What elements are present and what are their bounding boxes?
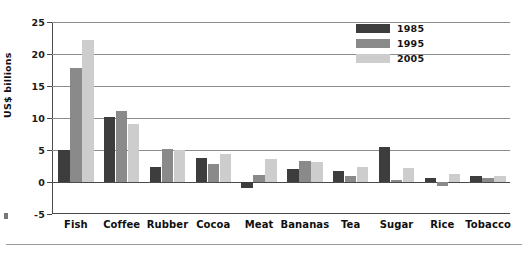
x-tick-label: Cocoa <box>196 219 230 230</box>
bar-chart: US$ billions 2520151050-5 FishCoffeeRubb… <box>0 0 528 260</box>
x-tick-label: Rubber <box>147 219 188 230</box>
legend-label: 1985 <box>397 23 424 34</box>
bar <box>253 175 265 182</box>
y-tick-mark <box>47 22 52 23</box>
y-tick-label: 15 <box>31 81 45 92</box>
x-axis-labels: FishCoffeeRubberCocoaMeatBananasTeaSugar… <box>52 219 510 239</box>
bar <box>265 159 277 182</box>
legend: 198519952005 <box>356 22 448 67</box>
bar <box>116 111 128 182</box>
bar <box>241 182 253 188</box>
bar <box>128 124 140 182</box>
bar <box>357 167 369 182</box>
legend-item: 1995 <box>356 37 448 50</box>
legend-item: 1985 <box>356 22 448 35</box>
page-edge-mark <box>4 213 8 219</box>
y-tick-label: 20 <box>31 49 45 60</box>
bar-group <box>465 22 511 214</box>
x-tick-label: Tobacco <box>465 219 511 230</box>
x-tick-label: Fish <box>64 219 88 230</box>
y-tick-label: 5 <box>38 145 45 156</box>
x-tick-label: Meat <box>245 219 274 230</box>
legend-swatch <box>356 24 390 33</box>
bar <box>482 178 494 182</box>
bar <box>494 176 506 182</box>
bar <box>299 161 311 182</box>
y-tick-mark <box>47 118 52 119</box>
bar <box>104 117 116 182</box>
bar <box>70 68 82 182</box>
bar <box>333 171 345 182</box>
bar-group <box>190 22 236 214</box>
bar <box>311 162 323 182</box>
y-tick-mark <box>47 182 52 183</box>
bar <box>208 164 220 182</box>
bar <box>58 150 70 182</box>
x-tick-label: Sugar <box>380 219 414 230</box>
bottom-rule <box>6 244 522 245</box>
bar <box>287 169 299 182</box>
bar <box>379 147 391 182</box>
bar <box>470 176 482 182</box>
legend-item: 2005 <box>356 52 448 65</box>
y-tick-label: 10 <box>31 113 45 124</box>
y-tick-mark <box>47 54 52 55</box>
bar <box>345 176 357 182</box>
y-tick-label: 25 <box>31 17 45 28</box>
bar <box>425 178 437 182</box>
y-axis-title: US$ billions <box>2 52 13 118</box>
bar <box>220 154 232 182</box>
bar-group <box>236 22 282 214</box>
bar-group <box>53 22 99 214</box>
legend-swatch <box>356 54 390 63</box>
y-tick-label: -5 <box>34 209 45 220</box>
x-tick-label: Rice <box>430 219 454 230</box>
y-tick-mark <box>47 86 52 87</box>
y-tick-mark <box>47 214 52 215</box>
bar <box>162 149 174 182</box>
x-tick-label: Tea <box>341 219 360 230</box>
legend-label: 1995 <box>397 38 424 49</box>
legend-swatch <box>356 39 390 48</box>
x-tick-label: Bananas <box>281 219 330 230</box>
bar <box>82 40 94 182</box>
x-tick-label: Coffee <box>103 219 140 230</box>
bar <box>391 180 403 182</box>
bar <box>403 168 415 182</box>
bar <box>196 158 208 182</box>
bar <box>150 167 162 182</box>
bar-group <box>145 22 191 214</box>
y-tick-label: 0 <box>38 177 45 188</box>
bar-group <box>99 22 145 214</box>
bar-group <box>282 22 328 214</box>
bar <box>437 182 449 186</box>
bar <box>174 150 186 182</box>
y-tick-mark <box>47 150 52 151</box>
legend-label: 2005 <box>397 53 424 64</box>
bar <box>449 174 461 182</box>
